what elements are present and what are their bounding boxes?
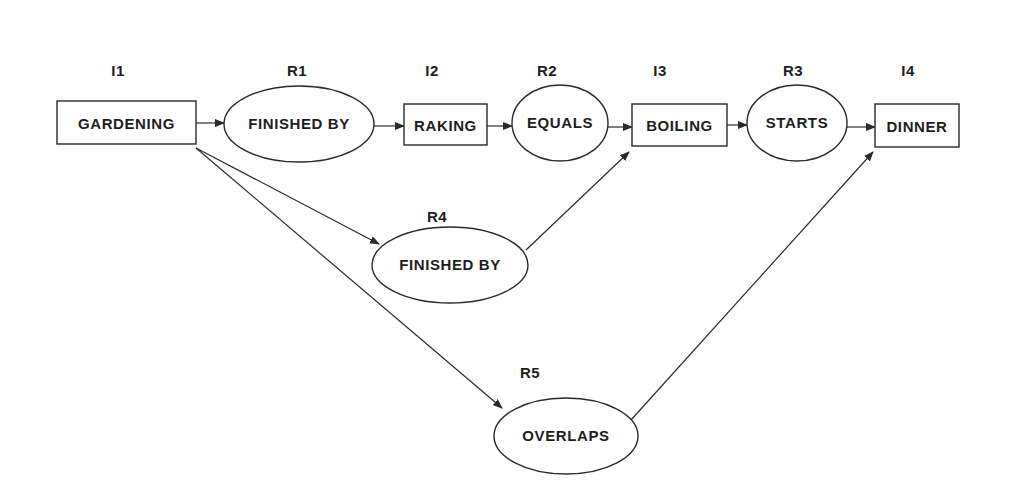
node-id-label-r1: R1 <box>287 62 307 79</box>
relation-node-r1: FINISHED BY <box>224 86 374 162</box>
interval-node-i4: DINNER <box>875 104 959 147</box>
interval-node-i1: GARDENING <box>57 101 196 144</box>
node-id-label-r5: R5 <box>520 364 540 381</box>
node-id-label-i3: I3 <box>653 62 667 79</box>
relation-label: OVERLAPS <box>522 427 609 444</box>
node-id-label-r3: R3 <box>783 62 803 79</box>
relation-node-r2: EQUALS <box>512 85 608 161</box>
relation-label: FINISHED BY <box>399 256 501 273</box>
node-id-label-r4: R4 <box>427 208 447 225</box>
interval-label: RAKING <box>414 117 477 134</box>
interval-label: DINNER <box>886 118 947 135</box>
relation-node-r3: STARTS <box>747 85 847 161</box>
node-id-label-i4: I4 <box>901 62 915 79</box>
edge-i1-to-r4 <box>196 148 379 244</box>
edge-r5-to-i4 <box>631 152 873 420</box>
interval-node-i2: RAKING <box>404 104 487 145</box>
interval-node-i3: BOILING <box>632 104 727 146</box>
node-id-label-i2: I2 <box>425 62 439 79</box>
edge-r4-to-i3 <box>526 152 629 250</box>
interval-label: BOILING <box>646 117 713 134</box>
relation-label: EQUALS <box>527 114 593 131</box>
relation-label: STARTS <box>766 114 829 131</box>
relation-node-r4: FINISHED BY <box>372 227 528 303</box>
interval-relation-diagram: GARDENINGRAKINGBOILINGDINNERFINISHED BYE… <box>0 0 1012 503</box>
relation-label: FINISHED BY <box>248 115 350 132</box>
node-id-label-r2: R2 <box>537 62 557 79</box>
shapes-layer: GARDENINGRAKINGBOILINGDINNERFINISHED BYE… <box>57 85 959 474</box>
interval-label: GARDENING <box>78 115 175 132</box>
relation-node-r5: OVERLAPS <box>494 398 638 474</box>
node-id-label-i1: I1 <box>111 62 125 79</box>
